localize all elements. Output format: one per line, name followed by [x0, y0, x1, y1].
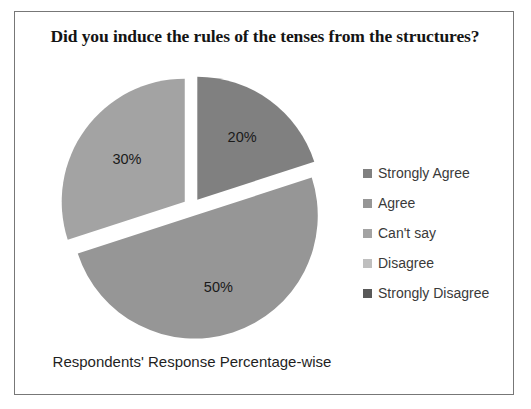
legend-item[interactable]: Strongly Disagree [363, 278, 513, 308]
pie-slice-label: 50% [204, 279, 233, 295]
legend-item-label: Strongly Disagree [378, 285, 489, 301]
legend-item-label: Can't say [378, 225, 436, 241]
pie-svg: 20%50%30% [47, 74, 337, 344]
legend-item-label: Disagree [378, 255, 434, 271]
axis-caption: Respondents' Response Percentage-wise [27, 353, 357, 370]
legend-item[interactable]: Strongly Agree [363, 158, 513, 188]
chart-frame: Did you induce the rules of the tenses f… [14, 11, 514, 395]
legend-swatch-icon [363, 169, 372, 178]
legend-swatch-icon [363, 259, 372, 268]
legend-swatch-icon [363, 199, 372, 208]
legend-item-label: Strongly Agree [378, 165, 470, 181]
pie-slice-label: 30% [112, 151, 141, 167]
legend-item[interactable]: Can't say [363, 218, 513, 248]
legend-swatch-icon [363, 289, 372, 298]
legend-item-label: Agree [378, 195, 415, 211]
legend-item[interactable]: Agree [363, 188, 513, 218]
legend: Strongly AgreeAgreeCan't sayDisagreeStro… [363, 158, 513, 308]
pie-slice-label: 20% [228, 129, 257, 145]
legend-swatch-icon [363, 229, 372, 238]
legend-item[interactable]: Disagree [363, 248, 513, 278]
